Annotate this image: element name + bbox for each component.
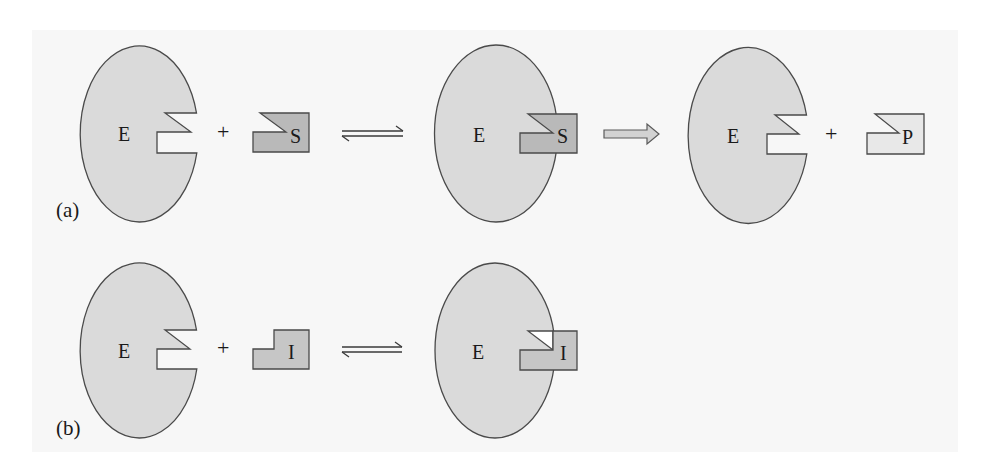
inhibitor-label: I	[288, 341, 295, 363]
enzyme-label: E	[727, 125, 739, 147]
substrate-label: S	[290, 125, 301, 147]
enzyme-diagram: E + S E S E +	[0, 0, 999, 467]
enzyme-label: E	[118, 340, 130, 362]
panel-label-b: (b)	[56, 416, 81, 440]
panel-label-a: (a)	[56, 198, 79, 222]
enzyme-label: E	[473, 124, 485, 146]
product-label: P	[902, 126, 913, 148]
enzyme-label: E	[118, 123, 130, 145]
inhibitor-label: I	[560, 342, 567, 364]
plus-sign: +	[825, 121, 837, 146]
substrate-label: S	[557, 125, 568, 147]
enzyme-label: E	[472, 341, 484, 363]
plus-sign: +	[217, 119, 229, 144]
plus-sign: +	[217, 335, 229, 360]
